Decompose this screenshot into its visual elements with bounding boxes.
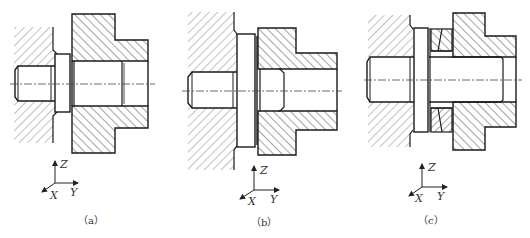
conical-ring <box>431 29 452 132</box>
panel-caption: （b） <box>251 217 277 228</box>
axis-x-label: X <box>49 189 59 202</box>
axis-z-label: Z <box>259 164 268 177</box>
stepped-pin <box>15 66 55 101</box>
flanged-bushing <box>72 14 148 153</box>
axis-z-label: Z <box>427 161 436 174</box>
flanged-bushing <box>453 13 516 150</box>
flanged-bushing <box>258 28 337 155</box>
panel-a: Z Y X （a） <box>10 14 155 226</box>
figure-canvas: Z Y X （a） <box>0 0 530 238</box>
axis-z-label: Z <box>59 158 68 171</box>
panel-b: Z Y X （b） <box>182 12 342 228</box>
large-flange-collar <box>237 34 257 147</box>
axis-y-label: Y <box>270 193 279 206</box>
through-pin <box>367 57 503 102</box>
panel-caption: （a） <box>78 215 104 226</box>
axis-triad: Z Y X <box>409 161 447 205</box>
axis-x-label: X <box>247 195 257 208</box>
axis-triad: Z Y X <box>42 158 79 202</box>
stepped-pin <box>188 72 237 108</box>
flange-collar <box>55 54 72 112</box>
axis-x-label: X <box>414 192 424 205</box>
axis-y-label: Y <box>70 186 79 199</box>
axis-triad: Z Y X <box>240 164 279 208</box>
panel-c: Z Y X （c） <box>364 13 522 226</box>
panel-caption: （c） <box>418 215 444 226</box>
axis-y-label: Y <box>437 190 446 203</box>
